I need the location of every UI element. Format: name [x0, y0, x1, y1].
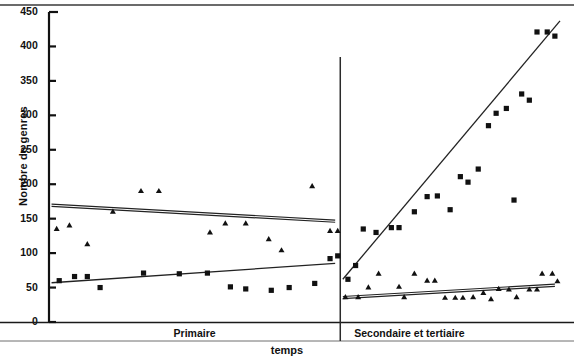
chart-figure: Nombre de genres 05010015020025030035040…	[0, 0, 574, 359]
trend-lines	[52, 21, 560, 299]
scatter-plot-canvas	[0, 0, 574, 359]
y-axis	[49, 12, 58, 322]
data-markers	[54, 29, 561, 301]
